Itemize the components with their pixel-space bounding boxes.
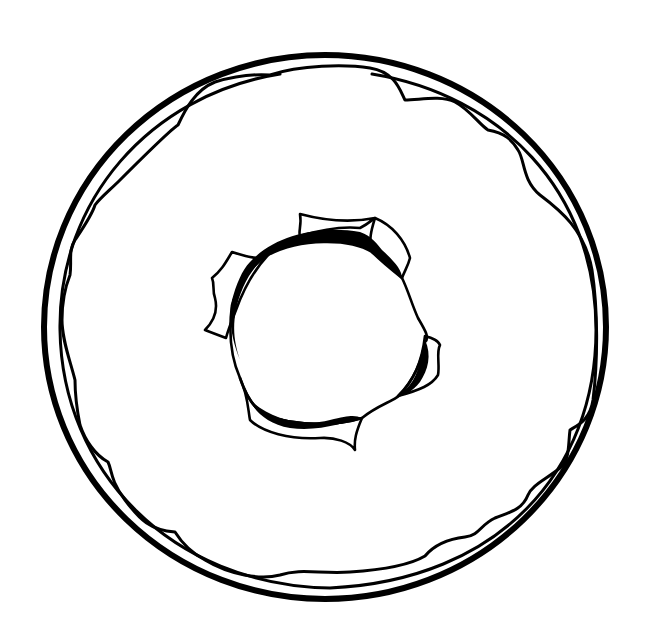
donut-outer-edge: [44, 55, 606, 599]
icing-hole-flap-bottom: [240, 378, 362, 450]
donut-hole-shadow: [230, 230, 402, 360]
icing-hole-flap-right: [398, 336, 440, 396]
donut-drawing: [0, 0, 648, 642]
